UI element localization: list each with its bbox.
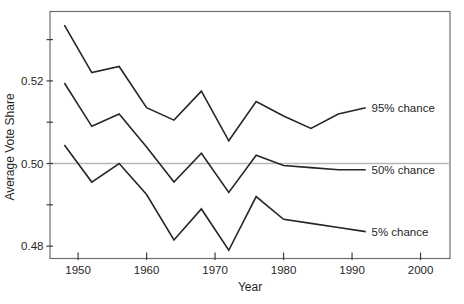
x-axis-tick-label: 1960 <box>134 264 160 276</box>
y-axis-tick-label: 0.52 <box>21 75 43 87</box>
vote-share-line-chart: 1950196019701980199020000.480.500.5295% … <box>0 0 464 304</box>
x-axis-tick-label: 1950 <box>65 264 91 276</box>
y-axis-tick-label: 0.48 <box>21 240 43 252</box>
y-axis-title: Average Vote Share <box>3 93 17 201</box>
series-end-label-95-chance: 95% chance <box>372 102 435 114</box>
series-line-95-chance <box>64 25 365 141</box>
series-line-5-chance <box>64 145 365 250</box>
series-end-label-50-chance: 50% chance <box>372 164 435 176</box>
x-axis-tick-label: 1990 <box>339 264 365 276</box>
plot-frame <box>50 12 450 259</box>
x-axis-tick-label: 2000 <box>408 264 434 276</box>
series-line-50-chance <box>64 83 365 192</box>
series-end-label-5-chance: 5% chance <box>372 226 429 238</box>
x-axis-tick-label: 1980 <box>271 264 297 276</box>
x-axis-title: Year <box>238 280 262 294</box>
vote-share-forecast-figure: 1950196019701980199020000.480.500.5295% … <box>0 0 464 304</box>
y-axis-tick-label: 0.50 <box>21 158 43 170</box>
x-axis-tick-label: 1970 <box>202 264 228 276</box>
